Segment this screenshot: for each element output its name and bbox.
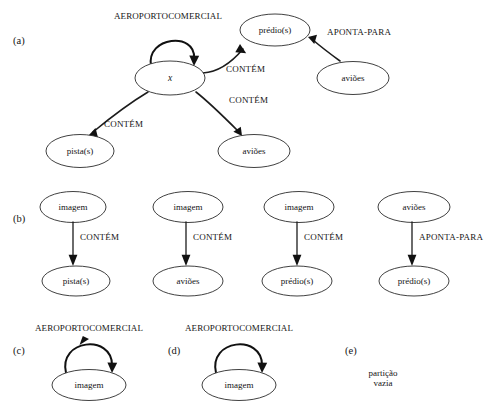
panel-b-column-3: imagem CONTÉM prédio(s) bbox=[262, 192, 343, 297]
col1-edge-arrowhead-icon bbox=[69, 255, 78, 266]
panel-b-col3-node-top[interactable]: imagem bbox=[264, 192, 334, 223]
col1-edge-label: CONTÉM bbox=[80, 232, 119, 242]
panel-b-col4-edge: APONTA-PARA bbox=[408, 222, 484, 266]
panel-d-node-imagem[interactable]: imagem bbox=[202, 370, 276, 401]
panel-b-col2-node-top[interactable]: imagem bbox=[153, 192, 223, 223]
panel-b-col4-node-top[interactable]: aviões bbox=[378, 192, 450, 223]
panel-a-title: AEROPORTOCOMERCIAL bbox=[114, 11, 222, 21]
panel-d-loop-arc bbox=[215, 344, 262, 373]
edge-x-avioes-label: CONTÉM bbox=[229, 95, 268, 105]
panel-b-col1-edge: CONTÉM bbox=[69, 222, 120, 266]
panel-c-letter: (c) bbox=[13, 345, 25, 357]
panel-c-node-imagem[interactable]: imagem bbox=[52, 370, 126, 401]
panel-a-node-pista[interactable]: pista(s) bbox=[46, 135, 114, 168]
panel-c-self-loop-edge bbox=[65, 336, 117, 373]
panel-b-col3-node-bottom[interactable]: prédio(s) bbox=[262, 266, 332, 296]
concept-graph-figure: (a) AEROPORTOCOMERCIAL CONTÉM CONTÉM CON… bbox=[0, 0, 492, 409]
panel-b-column-1: imagem CONTÉM pista(s) bbox=[40, 192, 119, 297]
node-avioes-bottom-label: aviões bbox=[243, 146, 266, 156]
node-pista-label: pista(s) bbox=[67, 146, 94, 156]
col4-edge-arrowhead-icon bbox=[408, 255, 417, 266]
panel-d: (d) AEROPORTOCOMERCIAL imagem bbox=[168, 323, 293, 401]
node-imagem-c-label: imagem bbox=[75, 380, 104, 390]
node-predio-label: prédio(s) bbox=[259, 25, 292, 35]
panel-b-letter: (b) bbox=[13, 213, 26, 225]
node-imagem-label: imagem bbox=[59, 202, 88, 212]
node-imagem-d-label: imagem bbox=[225, 380, 254, 390]
edge-avioes-predio-label: APONTA-PARA bbox=[327, 27, 391, 37]
panel-b-col1-node-top[interactable]: imagem bbox=[40, 192, 106, 223]
col3-edge-arrowhead-icon bbox=[293, 255, 302, 266]
edge-x-predio-label: CONTÉM bbox=[226, 64, 265, 74]
panel-b-col3-edge: CONTÉM bbox=[293, 222, 344, 266]
node-avioes-b2-label: aviões bbox=[403, 202, 426, 212]
panel-e-note-line1: partição bbox=[369, 368, 398, 378]
panel-d-self-loop-edge bbox=[215, 344, 267, 373]
col3-edge-label: CONTÉM bbox=[304, 232, 343, 242]
edge-avioes-predio-line bbox=[313, 40, 340, 61]
panel-b: (b) imagem CONTÉM pista(s) imagem bbox=[13, 192, 483, 297]
panel-a-node-avioes-bottom[interactable]: aviões bbox=[218, 135, 290, 168]
panel-c: (c) AEROPORTOCOMERCIAL imagem bbox=[13, 323, 143, 401]
panel-a-node-avioes-right[interactable]: aviões bbox=[317, 62, 389, 95]
panel-e: (e) partição vazia bbox=[345, 345, 398, 388]
panel-a-edge-x-predio: CONTÉM bbox=[203, 44, 265, 74]
panel-e-letter: (e) bbox=[345, 345, 357, 357]
panel-a-letter: (a) bbox=[13, 35, 25, 47]
panel-a: (a) AEROPORTOCOMERCIAL CONTÉM CONTÉM CON… bbox=[13, 11, 391, 168]
panel-c-loop-arc bbox=[65, 344, 112, 373]
panel-b-col1-node-bottom[interactable]: pista(s) bbox=[42, 266, 110, 296]
node-x-label: x bbox=[167, 73, 173, 83]
node-imagem-label: imagem bbox=[285, 202, 314, 212]
panel-c-title: AEROPORTOCOMERCIAL bbox=[35, 323, 143, 333]
edge-x-predio-arrowhead-icon bbox=[235, 44, 246, 53]
figure-root: (a) AEROPORTOCOMERCIAL CONTÉM CONTÉM CON… bbox=[0, 0, 492, 409]
panel-b-col4-node-bottom[interactable]: prédio(s) bbox=[379, 266, 449, 296]
col2-edge-arrowhead-icon bbox=[182, 255, 191, 266]
panel-a-edge-x-pista: CONTÉM bbox=[88, 92, 148, 138]
panel-b-column-4: aviões APONTA-PARA prédio(s) bbox=[378, 192, 483, 297]
panel-a-node-predio[interactable]: prédio(s) bbox=[240, 14, 310, 46]
node-avioes-right-label: aviões bbox=[342, 73, 365, 83]
node-predio-b-label: prédio(s) bbox=[281, 276, 314, 286]
col2-edge-label: CONTÉM bbox=[193, 232, 232, 242]
node-predio-b2-label: prédio(s) bbox=[398, 276, 431, 286]
panel-d-title: AEROPORTOCOMERCIAL bbox=[185, 323, 293, 333]
panel-b-column-2: imagem CONTÉM aviões bbox=[153, 192, 232, 297]
panel-e-note-line2: vazia bbox=[374, 378, 393, 388]
panel-a-edge-avioes-predio: APONTA-PARA bbox=[308, 27, 391, 61]
panel-a-edge-x-avioes: CONTÉM bbox=[196, 92, 268, 136]
col4-edge-label: APONTA-PARA bbox=[419, 232, 483, 242]
panel-d-letter: (d) bbox=[168, 345, 181, 357]
panel-b-col2-edge: CONTÉM bbox=[182, 222, 233, 266]
node-imagem-label: imagem bbox=[174, 202, 203, 212]
panel-b-col2-node-bottom[interactable]: aviões bbox=[153, 266, 223, 296]
edge-x-pista-label: CONTÉM bbox=[104, 119, 143, 129]
panel-a-node-x[interactable]: x bbox=[135, 61, 205, 95]
node-avioes-b-label: aviões bbox=[177, 276, 200, 286]
node-pista-b-label: pista(s) bbox=[63, 276, 90, 286]
